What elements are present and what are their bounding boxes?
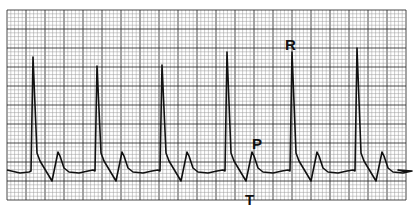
r-wave-label: R — [285, 37, 296, 52]
p-wave-label: P — [252, 136, 262, 151]
ecg-strip — [0, 0, 417, 215]
t-wave-label: T — [245, 192, 254, 207]
